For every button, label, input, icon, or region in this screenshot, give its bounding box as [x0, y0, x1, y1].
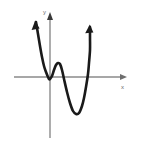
y-axis-label: y	[43, 9, 46, 15]
y-axis-arrow-icon	[47, 12, 53, 20]
curve-right-branch-arrow-icon	[85, 25, 93, 34]
curve-left-branch-arrow-icon	[32, 21, 40, 31]
x-axis-label: x	[121, 84, 124, 90]
graph-figure: y x	[0, 0, 142, 147]
quartic-curve	[36, 22, 90, 114]
x-axis-arrow-icon	[120, 74, 127, 80]
coordinate-plane-graph: y x	[0, 0, 142, 147]
